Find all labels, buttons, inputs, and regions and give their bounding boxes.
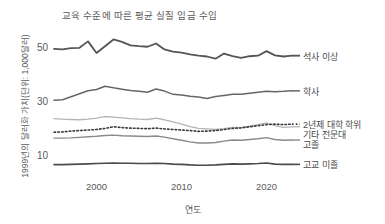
series-label-1: 학사 <box>303 85 319 98</box>
series-line <box>54 135 292 143</box>
series-label-5: 고교 미졸 <box>303 158 338 171</box>
series-line <box>54 163 292 165</box>
chart-container: 교육 수준에 따른 평균 실질 임금 수입 1999년의 달러화 가치(단위: … <box>0 0 385 224</box>
series-label-0: 석사 이상 <box>303 50 338 63</box>
plot-area <box>0 0 385 224</box>
series-label-4: 고졸 <box>303 138 319 151</box>
series-line <box>54 86 292 100</box>
series-line <box>54 124 292 132</box>
series-line <box>54 117 292 130</box>
series-line <box>54 39 292 58</box>
